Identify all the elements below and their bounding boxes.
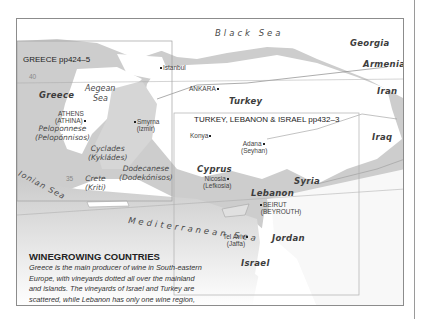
- adana-city: Adana(Seyhan): [241, 140, 267, 154]
- iran-label: Iran: [377, 86, 397, 96]
- syria-label: Syria: [294, 176, 320, 186]
- latitude-40-label: 40: [29, 73, 36, 80]
- turkey-inset-label[interactable]: TURKEY, LEBANON & ISRAEL pp432–3: [194, 115, 339, 124]
- crete-island: [87, 201, 129, 207]
- greece-label: Greece: [39, 90, 74, 100]
- tel-aviv-city: Tel Aviv(Jaffa): [223, 233, 249, 247]
- armenia-label: Armenia: [363, 59, 404, 69]
- konya-city: Konya: [190, 132, 212, 139]
- ankara-city: ANKARA: [189, 85, 220, 92]
- georgia-label: Georgia: [350, 38, 390, 48]
- turkey-label: Turkey: [229, 96, 262, 106]
- iraq-label: Iraq: [372, 132, 392, 142]
- beirut-city: BEIRUT (BEYROUTH): [259, 201, 301, 215]
- latitude-35-label: 35: [66, 175, 73, 182]
- page-gutter-rule: [414, 0, 415, 319]
- smyrna-city: Smyrna (Izmir): [133, 118, 159, 132]
- israel-label: Israel: [241, 258, 270, 268]
- istanbul-city: Istanbul: [159, 64, 186, 71]
- aegean-sea-label-2: Sea: [93, 94, 108, 103]
- nicosia-city: Nicosia(Lefkosia): [203, 175, 232, 189]
- peloponnese-label: Peloponnese(Pelopónnisos): [35, 124, 90, 142]
- caption-title: WINEGROWING COUNTRIES: [29, 251, 160, 262]
- caption-body: Greece is the main producer of wine in S…: [29, 263, 207, 306]
- black-sea-label: Black Sea: [215, 28, 284, 38]
- athens-city: ATHENS(ATHINA): [55, 110, 87, 124]
- crete-label: Crete(Kriti): [85, 174, 106, 192]
- map-frame: GREECE pp424–5 TURKEY, LEBANON & ISRAEL …: [16, 18, 404, 306]
- greece-inset-label[interactable]: GREECE pp424–5: [23, 55, 90, 64]
- lebanon-label: Lebanon: [251, 188, 294, 198]
- dodecanese-label: Dodecanese(Dodekónisos): [119, 164, 173, 182]
- cyclades-label: Cyclades(Kykládes): [88, 144, 127, 162]
- cyprus-label: Cyprus: [197, 164, 232, 174]
- aegean-sea-label-1: Aegean: [85, 84, 115, 93]
- jordan-label: Jordan: [272, 233, 305, 243]
